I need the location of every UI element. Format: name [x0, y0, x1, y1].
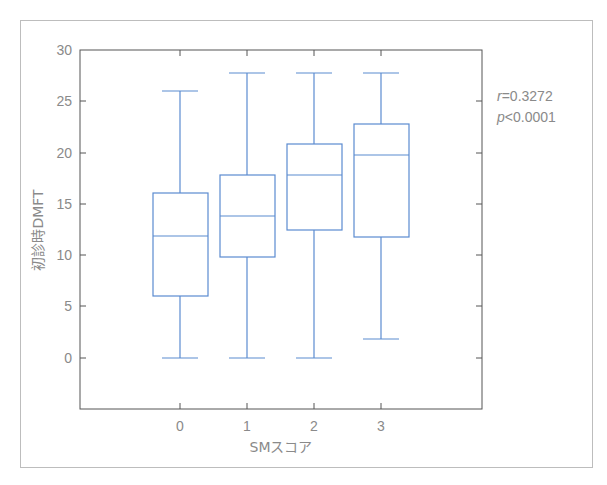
box-group-1 [220, 73, 275, 358]
y-tick-label: 0 [64, 350, 72, 366]
boxes [153, 73, 409, 358]
plot-area [80, 50, 482, 409]
y-tick-label: 15 [56, 196, 72, 212]
p-annotation: p<0.0001 [496, 109, 556, 125]
y-tick-label: 20 [56, 145, 72, 161]
y-tick-label: 5 [64, 298, 72, 314]
y-tick-label: 25 [56, 93, 72, 109]
x-tick-labels: 0 1 2 3 [176, 418, 385, 434]
x-axis-title: SMスコア [250, 439, 313, 455]
x-tick-label: 2 [310, 418, 318, 434]
y-tick-labels: 30 25 20 15 10 5 0 [56, 42, 72, 366]
boxplot-chart: 30 25 20 15 10 5 0 0 1 2 3 SMスコア 初診時DMFT [0, 0, 607, 485]
r-annotation: r=0.3272 [497, 88, 553, 104]
box-group-2 [287, 73, 342, 358]
box-group-3 [354, 73, 409, 339]
y-ticks [80, 101, 482, 358]
y-tick-label: 30 [56, 42, 72, 58]
y-axis-title: 初診時DMFT [30, 189, 46, 271]
x-tick-label: 1 [243, 418, 251, 434]
box-group-0 [153, 91, 208, 358]
y-tick-label: 10 [56, 247, 72, 263]
x-ticks [180, 50, 381, 409]
x-tick-label: 0 [176, 418, 184, 434]
x-tick-label: 3 [377, 418, 385, 434]
